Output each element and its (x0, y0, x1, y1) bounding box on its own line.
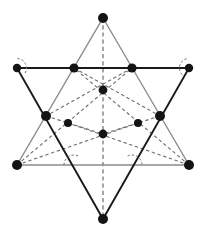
point-bottom-apex (98, 214, 108, 224)
geometry-figure-container (0, 0, 206, 239)
point-cross-top-left (69, 63, 78, 72)
point-inner-right (134, 119, 142, 127)
point-cross-mid-right (155, 111, 165, 121)
hexagram-diagram (0, 0, 206, 239)
point-upper-right (185, 64, 193, 72)
point-inner-bottom (99, 130, 108, 139)
point-inner-top (99, 86, 108, 95)
point-cross-mid-left (41, 111, 51, 121)
point-cross-top-right (127, 63, 136, 72)
point-lower-left (12, 160, 22, 170)
point-lower-right (184, 160, 194, 170)
point-upper-left (13, 64, 21, 72)
point-top-apex (98, 13, 108, 23)
point-inner-left (64, 119, 72, 127)
